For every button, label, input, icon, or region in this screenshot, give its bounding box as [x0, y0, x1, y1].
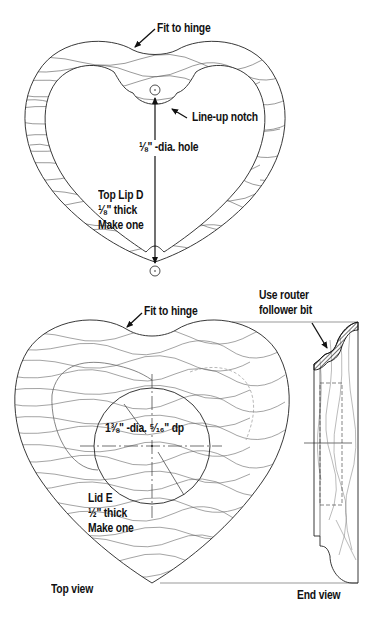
- lid-thickness: ½" thick: [88, 506, 134, 521]
- line-up-notch-label: Line-up notch: [192, 110, 258, 125]
- lid-hinge-label: Fit to hinge: [144, 304, 198, 319]
- top-lip-thickness: ⅛" thick: [98, 203, 144, 218]
- top-lip-hinge-label: Fit to hinge: [157, 21, 211, 36]
- top-lip-spec: Top Lip D ⅛" thick Make one: [98, 188, 144, 233]
- lid-top-view: [10, 313, 310, 583]
- lid-part-name: Lid E: [88, 491, 134, 506]
- lid-hinge-leader-arrow: [127, 313, 142, 327]
- top-lip-quantity: Make one: [98, 218, 144, 233]
- lid-quantity: Make one: [88, 521, 134, 536]
- recess-dimension-label: 1⅜" -dia. ⁵⁄₁₆" dp: [105, 421, 184, 436]
- router-label-line-2: follower bit: [259, 303, 312, 318]
- top-view-caption: Top view: [51, 582, 93, 597]
- router-leader-arrow: [312, 323, 327, 348]
- end-view-caption: End view: [297, 588, 340, 603]
- hole-diameter-label: ⅛" -dia. hole: [139, 140, 198, 155]
- top-lip-part-name: Top Lip D: [98, 188, 144, 203]
- notch-hole-top: [150, 85, 160, 95]
- notch-hole-bottom: [150, 266, 160, 276]
- router-bit-label: Use router follower bit: [259, 288, 312, 318]
- lid-spec: Lid E ½" thick Make one: [88, 491, 134, 536]
- hinge-leader-arrow: [135, 29, 155, 47]
- router-label-line-1: Use router: [259, 288, 312, 303]
- router-profile-hatch: [314, 322, 358, 370]
